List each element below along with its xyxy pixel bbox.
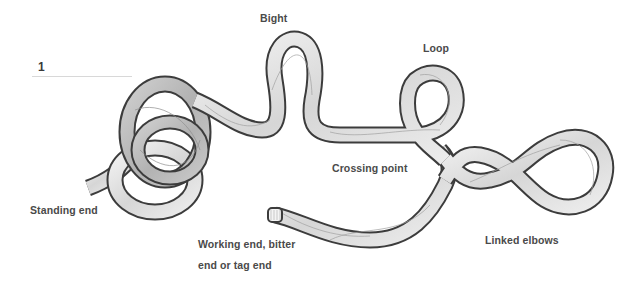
label-crossing-point: Crossing point xyxy=(332,162,407,174)
label-linked-elbows: Linked elbows xyxy=(485,234,559,246)
label-working-end-line2: end or tag end xyxy=(198,259,272,271)
label-working-end-line1: Working end, bitter xyxy=(198,238,295,250)
coil-front xyxy=(127,84,203,180)
rope-anatomy-diagram: 1 xyxy=(0,0,623,289)
bight-segment xyxy=(195,39,456,160)
linked-elbows-segment xyxy=(440,137,606,207)
label-standing-end: Standing end xyxy=(30,204,98,216)
label-bight: Bight xyxy=(260,12,287,24)
label-loop: Loop xyxy=(423,42,449,54)
